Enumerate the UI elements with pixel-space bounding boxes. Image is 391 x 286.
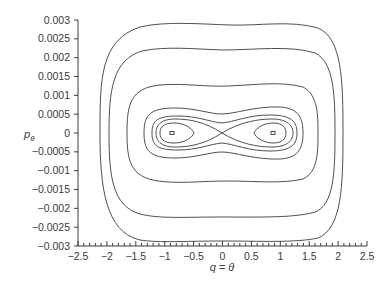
x-tick-label: −0.5 — [183, 250, 204, 262]
x-tick-label: 2.5 — [360, 250, 375, 262]
orbit-4 — [144, 107, 303, 159]
y-tick-label: 0.0005 — [38, 108, 70, 120]
y-ticks: 0.0030.00250.0020.00150.0010.00050−0.000… — [32, 14, 78, 252]
y-tick-label: −0.001 — [38, 164, 71, 176]
x-tick-label: 0.5 — [244, 250, 259, 262]
y-tick-label: 0.002 — [44, 51, 70, 63]
y-tick-label: −0.0005 — [32, 145, 70, 157]
contour-curves — [100, 23, 343, 241]
y-tick-label: 0.001 — [44, 89, 70, 101]
y-tick-label: 0.003 — [44, 14, 70, 26]
x-tick-label: −1.5 — [125, 250, 146, 262]
x-tick-label: 2 — [335, 250, 341, 262]
x-tick-label: −2 — [101, 250, 113, 262]
x-tick-label: 1.5 — [302, 250, 317, 262]
x-axis-label: q = θ — [210, 261, 235, 273]
y-tick-label: 0.0025 — [38, 32, 70, 44]
x-tick-label: 1 — [277, 250, 283, 262]
phase-portrait-chart: 0.0030.00250.0020.00150.0010.00050−0.000… — [0, 0, 391, 286]
fixed-point-left — [170, 132, 174, 135]
x-ticks: −2.5−2−1.5−1−0.500.511.522.5 — [68, 241, 375, 262]
y-tick-label: −0.0025 — [32, 221, 70, 233]
y-tick-label: 0 — [64, 127, 70, 139]
x-tick-label: −2.5 — [68, 250, 89, 262]
y-tick-label: 0.0015 — [38, 70, 70, 82]
y-tick-label: −0.0015 — [32, 183, 70, 195]
y-tick-label: −0.003 — [38, 240, 71, 252]
x-tick-label: −1 — [159, 250, 171, 262]
axes: 0.0030.00250.0020.00150.0010.00050−0.000… — [32, 14, 375, 263]
y-axis-label-subscript: θ — [30, 134, 35, 143]
y-tick-label: −0.002 — [38, 202, 71, 214]
island-left — [160, 123, 194, 143]
y-axis-label: pθ — [23, 128, 35, 143]
island-right — [254, 123, 286, 143]
fixed-point-right — [271, 132, 275, 135]
